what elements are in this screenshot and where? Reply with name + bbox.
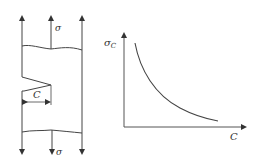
crack-length-label: C (33, 89, 41, 100)
stress-label-top: σ (55, 23, 62, 33)
cracked-specimen: σ C σ (22, 18, 82, 157)
break-line-top (22, 45, 82, 50)
diagram-canvas: σ C σ σC C (0, 0, 258, 160)
x-axis-label: C (230, 131, 238, 142)
y-axis-label: σC (104, 37, 117, 50)
stress-label-bottom: σ (56, 147, 63, 157)
critical-stress-curve (135, 43, 218, 121)
critical-stress-chart: σC C (104, 35, 244, 142)
